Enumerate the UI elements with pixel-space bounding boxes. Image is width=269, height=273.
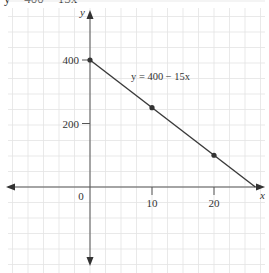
y-tick-label: 200 bbox=[63, 118, 80, 130]
data-point bbox=[211, 153, 216, 158]
linear-function-graph: 10202004000xyy = 400 − 15x bbox=[0, 0, 269, 273]
x-tick-label: 10 bbox=[147, 197, 159, 209]
x-axis-label: x bbox=[259, 189, 265, 201]
equation-label: y = 400 − 15x bbox=[131, 71, 191, 82]
x-axis-left-arrow-icon bbox=[6, 184, 15, 191]
data-point bbox=[87, 57, 92, 62]
x-tick-label: 20 bbox=[209, 197, 221, 209]
grid-lines bbox=[8, 1, 265, 273]
data-point bbox=[149, 105, 154, 110]
y-axis-up-arrow-icon bbox=[87, 10, 94, 19]
axis-labels: 10202004000xyy = 400 − 15x bbox=[63, 6, 266, 209]
axes bbox=[6, 10, 265, 266]
y-axis-label: y bbox=[79, 6, 85, 18]
origin-label: 0 bbox=[78, 190, 84, 202]
y-tick-label: 400 bbox=[63, 54, 80, 66]
